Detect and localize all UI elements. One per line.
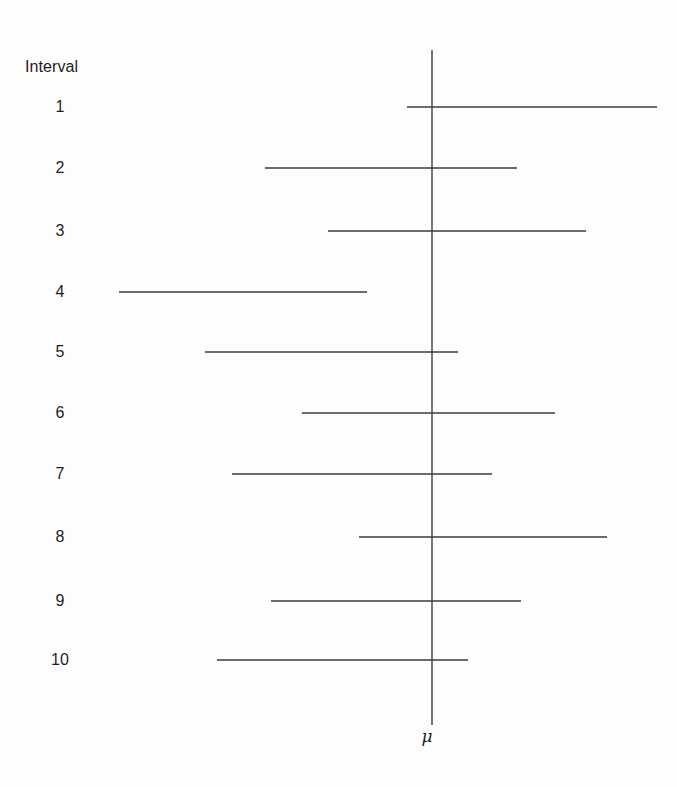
interval-row-label: 10 bbox=[51, 651, 69, 669]
interval-row-label: 1 bbox=[56, 98, 65, 116]
mu-axis-label: μ bbox=[421, 726, 432, 746]
interval-row-label: 5 bbox=[56, 343, 65, 361]
interval-row-label: 8 bbox=[56, 528, 65, 546]
interval-line-group bbox=[119, 107, 657, 660]
interval-row-label: 4 bbox=[56, 283, 65, 301]
plot-canvas bbox=[0, 0, 677, 787]
interval-row-label: 7 bbox=[56, 465, 65, 483]
interval-column-header: Interval bbox=[25, 58, 78, 76]
interval-row-label: 9 bbox=[56, 592, 65, 610]
interval-row-label: 6 bbox=[56, 404, 65, 422]
interval-row-label: 2 bbox=[56, 159, 65, 177]
interval-row-label: 3 bbox=[56, 222, 65, 240]
